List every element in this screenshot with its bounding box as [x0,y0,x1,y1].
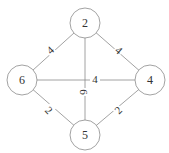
edge-label-6-4: 4 [90,73,100,85]
edge-label-2-6: 4 [43,43,57,57]
edge-weight-2-5: 6 [78,89,90,95]
node-6: 6 [7,65,37,95]
nodes: 2 6 4 5 [7,8,165,150]
node-label-2: 2 [82,16,88,30]
edge-label-6-5: 2 [42,103,56,117]
node-label-4: 4 [147,73,153,87]
edge-label-4-5: 2 [111,103,125,117]
node-5: 5 [70,120,100,150]
edge-label-2-5: 6 [78,88,90,96]
graph-diagram: 4 4 4 6 2 2 2 6 [0,0,169,153]
node-label-5: 5 [82,128,88,142]
edges [22,23,150,135]
node-4: 4 [135,65,165,95]
node-2: 2 [70,8,100,38]
node-label-6: 6 [19,73,25,87]
edge-weight-6-4: 4 [92,73,98,85]
edge-label-2-4: 4 [112,43,126,57]
